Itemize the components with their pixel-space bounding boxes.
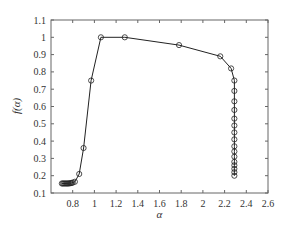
x-tick-label: 2.4 (240, 198, 253, 209)
y-axis-label: f(α) (10, 98, 23, 114)
chart: 0.811.21.41.61.822.22.42.6 0.10.20.30.40… (0, 0, 285, 232)
y-tick-label: 0.6 (34, 101, 47, 112)
data-series-line (62, 37, 235, 183)
x-tick-label: 1.8 (175, 198, 188, 209)
x-tick-label: 1.4 (132, 198, 145, 209)
y-tick-label: 0.4 (34, 136, 47, 147)
x-axis-label: α (157, 208, 163, 220)
y-tick-label: 0.8 (34, 66, 47, 77)
data-series-markers (59, 35, 237, 186)
y-tick-label: 0.5 (34, 118, 47, 129)
x-tick-label: 2 (200, 198, 205, 209)
y-tick-label: 1 (41, 32, 46, 43)
x-axis-ticks: 0.811.21.41.61.822.22.42.6 (66, 20, 274, 209)
x-tick-label: 2.2 (218, 198, 231, 209)
y-tick-label: 1.1 (34, 15, 47, 26)
y-tick-label: 0.1 (34, 188, 47, 199)
y-tick-label: 0.2 (34, 170, 47, 181)
x-tick-label: 2.6 (262, 198, 275, 209)
x-tick-label: 1.2 (110, 198, 123, 209)
y-tick-label: 0.3 (34, 153, 47, 164)
x-tick-label: 0.8 (66, 198, 79, 209)
x-tick-label: 1 (92, 198, 97, 209)
y-tick-label: 0.7 (34, 84, 47, 95)
y-tick-label: 0.9 (34, 49, 47, 60)
plot-frame (51, 20, 268, 193)
